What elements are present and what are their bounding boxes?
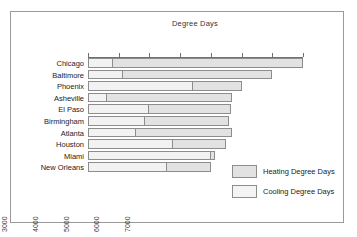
axis-title: Degree Days — [135, 19, 255, 28]
x-axis-tick — [303, 53, 304, 57]
bar-row — [88, 116, 303, 126]
category-label-miami: Miami — [2, 152, 84, 161]
bar-segment-cooling — [88, 151, 211, 161]
bar-segment-heating — [106, 93, 232, 103]
category-label-phoenix: Phoenix — [2, 82, 84, 91]
bar-row — [88, 70, 303, 80]
legend-item: Cooling Degree Days — [232, 183, 342, 203]
x-axis-tick — [211, 53, 212, 57]
bar-segment-cooling — [88, 162, 167, 172]
bar-segment-cooling — [88, 93, 107, 103]
bar-row — [88, 93, 303, 103]
bar-segment-heating — [210, 151, 216, 161]
category-label-atlanta: Atlanta — [2, 129, 84, 138]
category-label-chicago: Chicago — [2, 59, 84, 68]
category-label-birmingham: Birmingham — [2, 117, 84, 126]
x-axis-tick — [119, 53, 120, 57]
bar-row — [88, 104, 303, 114]
bar-segment-cooling — [88, 116, 145, 126]
bar-segment-cooling — [88, 128, 136, 138]
bar-segment-cooling — [88, 139, 173, 149]
bar-segment-heating — [148, 104, 230, 114]
x-axis-tick — [272, 53, 273, 57]
bar-segment-cooling — [88, 104, 149, 114]
bar-segment-cooling — [88, 58, 113, 68]
bar-row — [88, 151, 303, 161]
legend-swatch-cooling — [232, 185, 257, 198]
category-label-houston: Houston — [2, 140, 84, 149]
bar-segment-cooling — [88, 81, 193, 91]
bar-row — [88, 128, 303, 138]
legend-label: Heating Degree Days — [263, 167, 335, 176]
category-label-new-orleans: New Orleans — [2, 163, 84, 172]
category-label-el-paso: El Paso — [2, 105, 84, 114]
bar-segment-heating — [144, 116, 229, 126]
x-axis-tick — [88, 53, 89, 57]
category-label-baltimore: Baltimore — [2, 71, 84, 80]
x-axis-tick — [180, 53, 181, 57]
plot-area — [88, 58, 303, 174]
bar-segment-heating — [172, 139, 226, 149]
legend-item: Heating Degree Days — [232, 163, 342, 183]
legend-swatch-heating — [232, 165, 257, 178]
bar-segment-heating — [112, 58, 303, 68]
category-label-asheville: Asheville — [2, 94, 84, 103]
bar-segment-heating — [166, 162, 211, 172]
x-axis-tick-label: 7000 — [124, 216, 306, 232]
x-axis-tick — [149, 53, 150, 57]
bar-row — [88, 81, 303, 91]
bar-segment-heating — [192, 81, 242, 91]
chart-figure: Degree Days 0100020003000400050006000700… — [0, 0, 357, 237]
bar-segment-heating — [122, 70, 273, 80]
legend-label: Cooling Degree Days — [263, 187, 334, 196]
chart-legend: Heating Degree DaysCooling Degree Days — [232, 163, 342, 203]
bar-row — [88, 58, 303, 68]
bar-segment-heating — [135, 128, 232, 138]
bar-row — [88, 139, 303, 149]
bar-segment-cooling — [88, 70, 123, 80]
x-axis-tick — [242, 53, 243, 57]
